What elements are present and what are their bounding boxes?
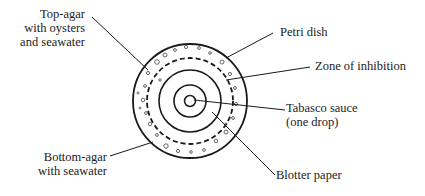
label-top-agar-line2: with oysters bbox=[20, 21, 85, 35]
label-petri-dish: Petri dish bbox=[280, 25, 328, 39]
petri-dish-leader bbox=[226, 33, 273, 58]
leader-lines bbox=[92, 17, 310, 175]
tabasco-leader bbox=[194, 100, 285, 110]
label-zone-of-inhibition: Zone of inhibition bbox=[315, 59, 406, 73]
petri-dish-diagram: Top-agar with oysters and seawater Botto… bbox=[0, 0, 425, 196]
top-agar-leader bbox=[92, 17, 148, 70]
tabasco-drop bbox=[185, 96, 196, 107]
petri-dish-outline bbox=[133, 44, 247, 158]
label-top-agar-line3: and seawater bbox=[20, 35, 85, 49]
zone-of-inhibition-leader bbox=[226, 67, 310, 80]
blotter-paper-ring bbox=[159, 70, 221, 132]
label-blotter-paper: Blotter paper bbox=[276, 168, 342, 182]
zone-of-inhibition-ring bbox=[147, 58, 233, 144]
label-tabasco-line2: (one drop) bbox=[286, 115, 358, 129]
oyster-speckles bbox=[137, 45, 238, 153]
label-bottom-agar-line2: with seawater bbox=[38, 164, 107, 178]
label-tabasco-line1: Tabasco sauce bbox=[286, 101, 358, 115]
label-top-agar: Top-agar with oysters and seawater bbox=[20, 7, 85, 49]
label-top-agar-line1: Top-agar bbox=[20, 7, 85, 21]
label-bottom-agar: Bottom-agar with seawater bbox=[38, 150, 107, 178]
label-bottom-agar-line1: Bottom-agar bbox=[38, 150, 107, 164]
bottom-agar-leader bbox=[110, 142, 153, 156]
label-tabasco: Tabasco sauce (one drop) bbox=[286, 101, 358, 129]
